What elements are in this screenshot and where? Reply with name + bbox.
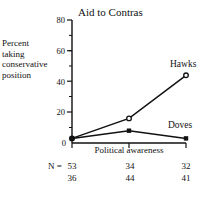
series-point-hawks-1 bbox=[127, 116, 132, 121]
series-point-doves-1 bbox=[127, 129, 131, 133]
sample-size-r2-c1: 44 bbox=[118, 173, 142, 183]
y-tick-label-40: 40 bbox=[57, 77, 66, 87]
chart-figure: Percent taking conservative position Aid… bbox=[0, 0, 208, 197]
sample-size-table: N = 53 34 32 36 44 41 bbox=[0, 161, 208, 185]
y-tick-label-20: 20 bbox=[57, 107, 66, 117]
sample-size-r1-c1: 34 bbox=[118, 161, 142, 171]
series-label-doves: Doves bbox=[168, 120, 193, 130]
y-tick-label-60: 60 bbox=[57, 46, 66, 56]
y-tick-label-80: 80 bbox=[57, 15, 66, 25]
sample-size-r2-c2: 41 bbox=[174, 173, 198, 183]
sample-size-r2-c0: 36 bbox=[60, 173, 84, 183]
y-axis-ticks bbox=[67, 20, 72, 128]
y-tick-label-0: 0 bbox=[62, 138, 66, 148]
series-point-hawks-2 bbox=[184, 73, 189, 78]
series-point-doves-0 bbox=[70, 136, 74, 140]
sample-size-r1-c0: 53 bbox=[60, 161, 84, 171]
sample-size-row-2: 36 44 41 bbox=[0, 173, 208, 185]
series-label-hawks: Hawks bbox=[170, 59, 197, 69]
sample-size-row-1: N = 53 34 32 bbox=[0, 161, 208, 173]
sample-size-r1-c2: 32 bbox=[174, 161, 198, 171]
x-axis-label: Political awareness bbox=[72, 145, 186, 155]
series-point-doves-2 bbox=[184, 136, 188, 140]
